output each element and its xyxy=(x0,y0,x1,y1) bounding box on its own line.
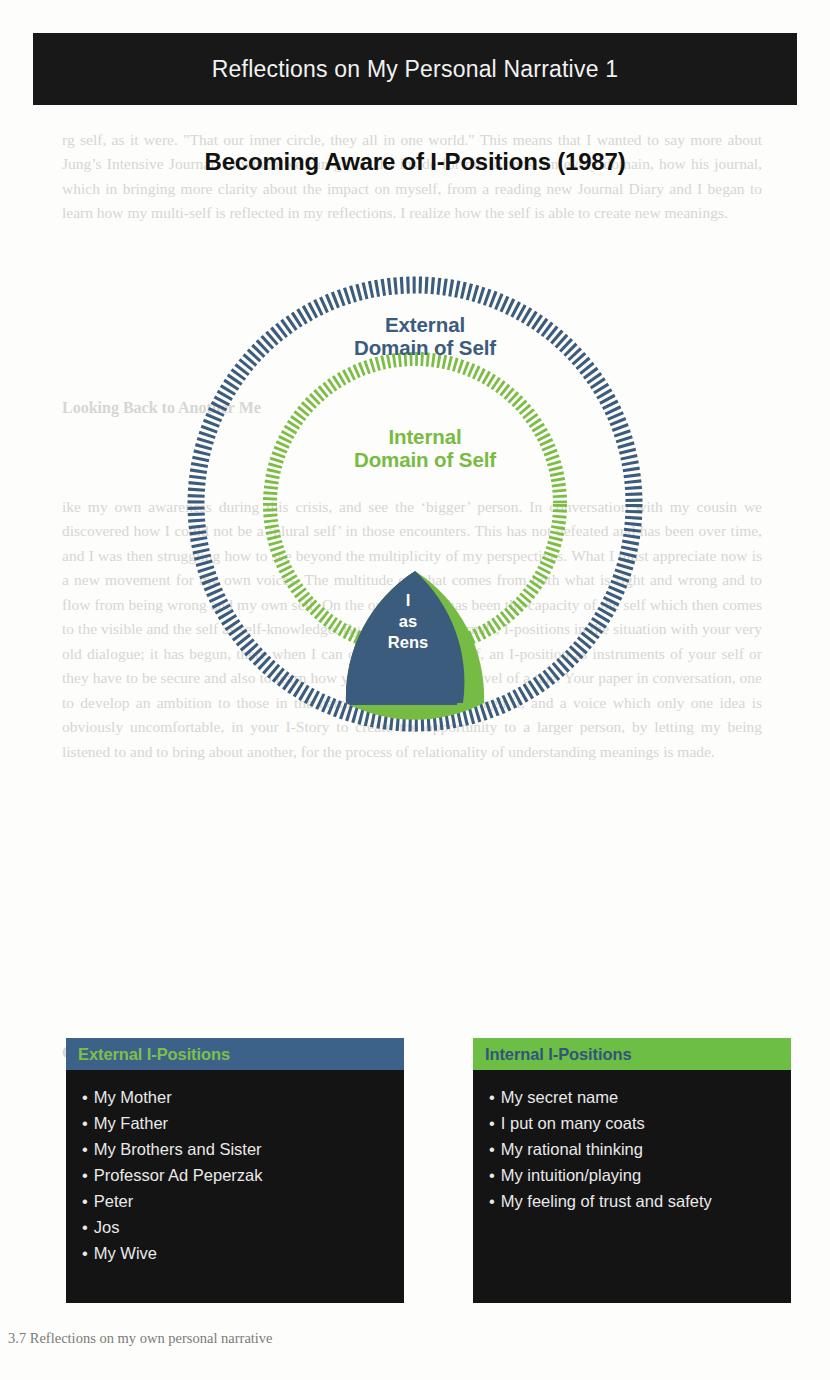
list-item: •Professor Ad Peperzak xyxy=(82,1162,390,1188)
core-label: I as Rens xyxy=(343,590,473,653)
core-label-line3: Rens xyxy=(343,632,473,653)
panel-internal-i-positions: Internal I-Positions •My secret name •I … xyxy=(473,1038,791,1303)
slide-title: Reflections on My Personal Narrative 1 xyxy=(212,56,618,83)
list-item-label: My rational thinking xyxy=(501,1140,643,1158)
external-domain-label-line2: Domain of Self xyxy=(268,337,582,360)
panel-external-i-positions: External I-Positions •My Mother •My Fath… xyxy=(66,1038,404,1303)
page-root: rg self, as it were. "That our inner cir… xyxy=(0,0,830,1380)
bullet-icon: • xyxy=(489,1114,495,1132)
bullet-icon: • xyxy=(82,1114,88,1132)
bullet-icon: • xyxy=(489,1166,495,1184)
bullet-icon: • xyxy=(489,1140,495,1158)
bullet-icon: • xyxy=(82,1088,88,1106)
list-item: •My Wive xyxy=(82,1240,390,1266)
list-item-label: My Brothers and Sister xyxy=(94,1140,262,1158)
slide: Reflections on My Personal Narrative 1 B… xyxy=(33,33,797,1303)
bullet-icon: • xyxy=(82,1166,88,1184)
bullet-icon: • xyxy=(82,1140,88,1158)
external-domain-label-line1: External xyxy=(268,314,582,337)
bullet-icon: • xyxy=(82,1244,88,1262)
list-item: •My secret name xyxy=(489,1084,777,1110)
bullet-icon: • xyxy=(489,1192,495,1210)
list-item-label: My intuition/playing xyxy=(501,1166,641,1184)
list-item: •I put on many coats xyxy=(489,1110,777,1136)
slide-subtitle: Becoming Aware of I-Positions (1987) xyxy=(33,148,797,176)
core-label-line2: as xyxy=(343,611,473,632)
external-domain-label: External Domain of Self xyxy=(268,314,582,360)
diagram-svg xyxy=(33,208,797,748)
panel-internal-body: •My secret name •I put on many coats •My… xyxy=(473,1070,791,1228)
i-position-diagram: External Domain of Self Internal Domain … xyxy=(33,208,797,748)
core-label-line1: I xyxy=(343,590,473,611)
list-item: •My Brothers and Sister xyxy=(82,1136,390,1162)
list-item: •My Father xyxy=(82,1110,390,1136)
list-item-label: My Wive xyxy=(94,1244,157,1262)
bullet-icon: • xyxy=(82,1192,88,1210)
list-item-label: Peter xyxy=(94,1192,133,1210)
panel-internal-header: Internal I-Positions xyxy=(473,1038,791,1070)
list-item-label: My Mother xyxy=(94,1088,172,1106)
bullet-icon: • xyxy=(489,1088,495,1106)
list-item-label: My Father xyxy=(94,1114,168,1132)
panel-external-header: External I-Positions xyxy=(66,1038,404,1070)
list-item-label: Professor Ad Peperzak xyxy=(94,1166,263,1184)
list-item: •My feeling of trust and safety xyxy=(489,1188,777,1214)
internal-i-positions-list: •My secret name •I put on many coats •My… xyxy=(489,1084,777,1214)
list-item: •My rational thinking xyxy=(489,1136,777,1162)
internal-domain-label: Internal Domain of Self xyxy=(268,426,582,472)
list-item: •My intuition/playing xyxy=(489,1162,777,1188)
figure-caption: 3.7 Reflections on my own personal narra… xyxy=(8,1330,708,1347)
list-item-label: My secret name xyxy=(501,1088,618,1106)
list-item: •Jos xyxy=(82,1214,390,1240)
bullet-icon: • xyxy=(82,1218,88,1236)
list-item: •Peter xyxy=(82,1188,390,1214)
panel-external-body: •My Mother •My Father •My Brothers and S… xyxy=(66,1070,404,1280)
list-item-label: I put on many coats xyxy=(501,1114,645,1132)
list-item: •My Mother xyxy=(82,1084,390,1110)
external-i-positions-list: •My Mother •My Father •My Brothers and S… xyxy=(82,1084,390,1266)
slide-title-bar: Reflections on My Personal Narrative 1 xyxy=(33,33,797,105)
internal-domain-label-line1: Internal xyxy=(268,426,582,449)
list-item-label: Jos xyxy=(94,1218,120,1236)
list-item-label: My feeling of trust and safety xyxy=(501,1192,712,1210)
internal-domain-label-line2: Domain of Self xyxy=(268,449,582,472)
